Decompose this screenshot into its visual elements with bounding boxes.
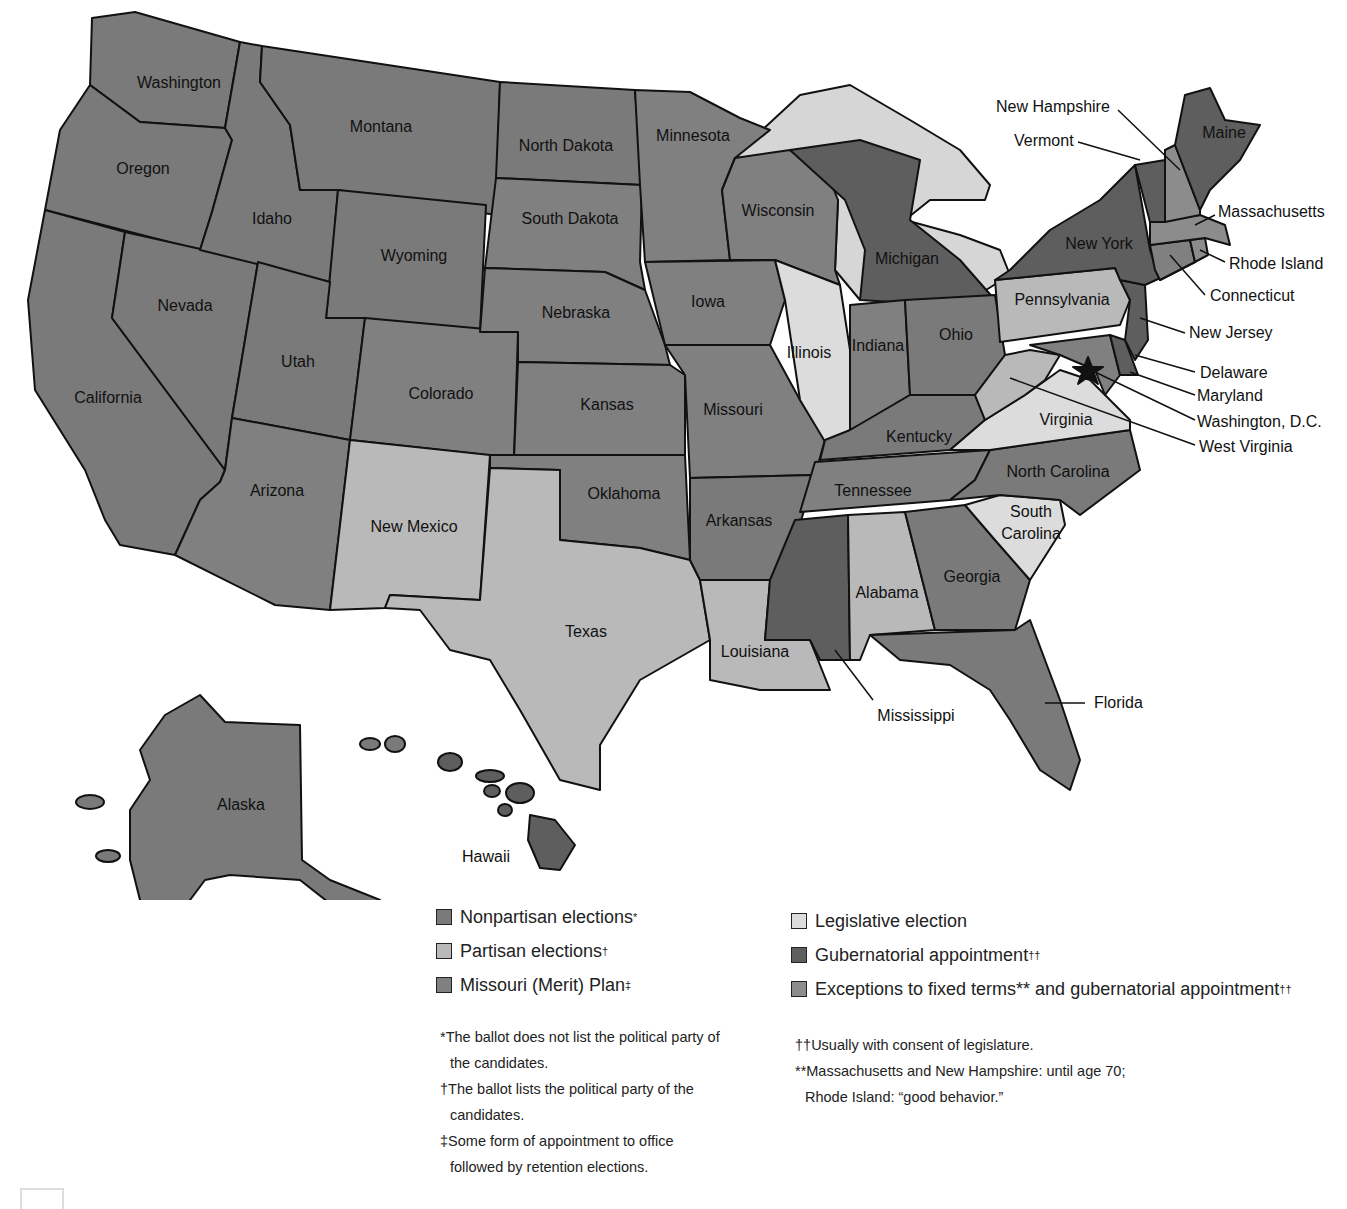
label-hawaii: Hawaii [462, 846, 510, 868]
label-new-york: New York [1065, 233, 1133, 255]
footnotes-right: ††Usually with consent of legislature. *… [795, 1032, 1155, 1110]
label-pennsylvania: Pennsylvania [1014, 289, 1109, 311]
legend-right: Legislative election Gubernatorial appoi… [791, 904, 1292, 1006]
label-connecticut: Connecticut [1210, 287, 1295, 305]
label-utah: Utah [281, 351, 315, 373]
swatch-icon [791, 913, 807, 929]
footnote-double-dagger: ‡Some form of appointment to office foll… [440, 1128, 730, 1180]
footnote-double-dagger-pair: ††Usually with consent of legislature. [795, 1032, 1155, 1058]
label-maine: Maine [1202, 122, 1246, 144]
label-mississippi: Mississippi [877, 705, 954, 727]
label-new-hampshire: New Hampshire [996, 98, 1110, 116]
label-wyoming: Wyoming [381, 245, 448, 267]
label-washington-dc: Washington, D.C. [1197, 413, 1322, 431]
label-michigan: Michigan [875, 248, 939, 270]
label-delaware: Delaware [1200, 364, 1268, 382]
label-idaho: Idaho [252, 208, 292, 230]
label-north-dakota: North Dakota [519, 135, 613, 157]
label-oklahoma: Oklahoma [588, 483, 661, 505]
label-vermont: Vermont [1014, 132, 1074, 150]
label-oregon: Oregon [116, 158, 169, 180]
label-illinois: Illinois [787, 342, 831, 364]
label-virginia: Virginia [1039, 409, 1092, 431]
label-tennessee: Tennessee [834, 480, 911, 502]
footnotes-left: *The ballot does not list the political … [440, 1024, 730, 1180]
swatch-icon [791, 947, 807, 963]
swatch-icon [436, 909, 452, 925]
label-north-carolina: North Carolina [1006, 461, 1109, 483]
legend-item-nonpartisan: Nonpartisan elections* [436, 900, 637, 934]
label-new-jersey: New Jersey [1189, 324, 1273, 342]
label-arizona: Arizona [250, 480, 304, 502]
label-wisconsin: Wisconsin [742, 200, 815, 222]
label-missouri: Missouri [703, 399, 763, 421]
state-connecticut[interactable] [1150, 240, 1195, 280]
label-alabama: Alabama [855, 582, 918, 604]
legend-item-partisan: Partisan elections† [436, 934, 637, 968]
label-washington: Washington [137, 72, 221, 94]
legend-item-merit: Missouri (Merit) Plan‡ [436, 968, 637, 1002]
label-colorado: Colorado [409, 383, 474, 405]
label-florida: Florida [1094, 694, 1143, 712]
label-maryland: Maryland [1197, 387, 1263, 405]
label-kansas: Kansas [580, 394, 633, 416]
label-massachusetts: Massachusetts [1218, 203, 1325, 221]
label-west-virginia: West Virginia [1199, 438, 1293, 456]
swatch-icon [436, 943, 452, 959]
footnote-double-asterisk-cont: Rhode Island: “good behavior.” [795, 1084, 1155, 1110]
swatch-icon [436, 977, 452, 993]
page-corner-mark [20, 1188, 64, 1209]
label-nebraska: Nebraska [542, 302, 610, 324]
label-texas: Texas [565, 621, 607, 643]
label-iowa: Iowa [691, 291, 725, 313]
legend-left: Nonpartisan elections* Partisan election… [436, 900, 637, 1002]
label-rhode-island: Rhode Island [1229, 255, 1323, 273]
swatch-icon [791, 981, 807, 997]
label-georgia: Georgia [944, 566, 1001, 588]
label-minnesota: Minnesota [656, 125, 730, 147]
label-arkansas: Arkansas [706, 510, 773, 532]
label-new-mexico: New Mexico [370, 516, 457, 538]
label-california: California [74, 387, 142, 409]
label-nevada: Nevada [157, 295, 212, 317]
footnote-asterisk: *The ballot does not list the political … [440, 1024, 730, 1076]
footnote-dagger: †The ballot lists the political party of… [440, 1076, 730, 1128]
label-ohio: Ohio [939, 324, 973, 346]
label-louisiana: Louisiana [721, 641, 790, 663]
label-indiana: Indiana [852, 335, 905, 357]
label-south-dakota: South Dakota [522, 208, 619, 230]
label-south-carolina: South Carolina [991, 501, 1071, 544]
label-alaska: Alaska [217, 794, 265, 816]
legend-item-exceptions: Exceptions to fixed terms** and gubernat… [791, 972, 1292, 1006]
footnote-double-asterisk: **Massachusetts and New Hampshire: until… [795, 1058, 1155, 1084]
legend-item-gubernatorial: Gubernatorial appointment†† [791, 938, 1292, 972]
label-kentucky: Kentucky [886, 426, 952, 448]
state-north-dakota[interactable] [496, 82, 642, 185]
label-montana: Montana [350, 116, 412, 138]
legend-item-legislative: Legislative election [791, 904, 1292, 938]
